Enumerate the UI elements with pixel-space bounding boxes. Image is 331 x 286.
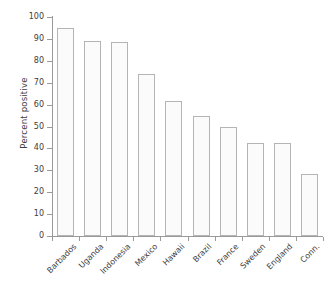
y-axis-tick-label: 90 (34, 35, 44, 43)
x-axis-tick (188, 237, 189, 241)
y-axis-tick-label: 70 (34, 79, 44, 87)
x-axis-label: France (215, 242, 240, 267)
bar (193, 116, 210, 236)
x-axis-label: Mexico (133, 242, 159, 268)
bar (247, 143, 264, 236)
x-axis-tick (323, 237, 324, 241)
x-axis-label: Sweden (239, 242, 268, 271)
bar (138, 74, 155, 236)
bar (274, 143, 291, 236)
bar (165, 101, 182, 236)
x-axis-label: Hawaii (161, 242, 186, 267)
x-axis-tick (106, 237, 107, 241)
y-axis-tick-label: 30 (34, 166, 44, 174)
y-axis-tick-label: 10 (34, 210, 44, 218)
x-axis-tick (242, 237, 243, 241)
bar (220, 127, 237, 237)
y-axis-tick-label: 20 (34, 188, 44, 196)
y-axis-tick-label: 100 (29, 13, 44, 21)
y-axis-tick-label: 0 (39, 232, 44, 240)
bar (301, 174, 318, 236)
y-axis-tick-label: 50 (34, 123, 44, 131)
y-axis-title: Percent positive (19, 53, 29, 173)
bar (111, 42, 128, 236)
x-axis-tick (215, 237, 216, 241)
x-axis-tick (79, 237, 80, 241)
x-axis-tick (52, 237, 53, 241)
x-axis-label: Barbados (45, 242, 78, 275)
bars-layer (52, 17, 323, 236)
x-axis-tick (133, 237, 134, 241)
x-axis-tick (296, 237, 297, 241)
bar (84, 41, 101, 236)
y-axis-tick-label: 40 (34, 144, 44, 152)
x-axis-tick (269, 237, 270, 241)
bar-chart: Percent positive 0102030405060708090100 … (0, 0, 331, 286)
x-axis-label: England (265, 242, 294, 271)
y-axis-tick-label: 80 (34, 57, 44, 65)
x-axis-label: Brazil (191, 242, 213, 264)
y-axis-tick-label: 60 (34, 101, 44, 109)
x-axis-label: Conn. (299, 242, 322, 265)
bar (57, 28, 74, 236)
x-axis-tick (160, 237, 161, 241)
